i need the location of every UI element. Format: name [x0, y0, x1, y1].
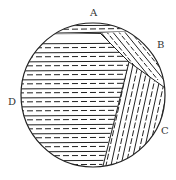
label-b: B [157, 40, 164, 50]
circle-diagram [0, 0, 176, 180]
label-d: D [8, 97, 16, 107]
diagram-figure: A B C D [0, 0, 176, 180]
label-c: C [161, 126, 169, 136]
label-a: A [90, 8, 97, 18]
outer-circle [21, 23, 165, 167]
region-d [0, 33, 176, 165]
region-a [0, 25, 176, 34]
